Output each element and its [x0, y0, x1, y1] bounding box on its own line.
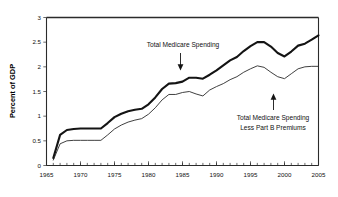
x-tick-label: 1985 [176, 171, 190, 178]
y-tick-label: 0.5 [32, 137, 41, 144]
chart-container: 00.511.522.53 19651970197519801985199019… [0, 0, 338, 197]
y-tick-label: 2 [38, 63, 42, 70]
x-tick-label: 1965 [40, 171, 54, 178]
annotation-label-less-part-b-line2: Less Part B Premiums [240, 124, 306, 131]
medicare-spending-line-chart: 00.511.522.53 19651970197519801985199019… [0, 0, 338, 197]
y-tick-label: 1.5 [32, 88, 41, 95]
x-tick-label: 2005 [312, 171, 326, 178]
annotation-label-total-medicare-spending: Total Medicare Spending [147, 41, 220, 49]
annotation-label-less-part-b-line1: Total Medicare Spending [237, 114, 310, 122]
x-tick-label: 1990 [210, 171, 224, 178]
x-tick-label: 1975 [108, 171, 122, 178]
y-tick-label: 2.5 [32, 38, 41, 45]
x-tick-label: 2000 [278, 171, 292, 178]
y-axis-title: Percent of GDP [8, 64, 17, 118]
chart-background [0, 0, 338, 197]
x-tick-label: 1980 [142, 171, 156, 178]
x-tick-label: 1970 [74, 171, 88, 178]
y-tick-label: 3 [38, 14, 42, 21]
y-tick-label: 1 [38, 112, 42, 119]
x-tick-label: 1995 [244, 171, 258, 178]
y-tick-label: 0 [38, 162, 42, 169]
